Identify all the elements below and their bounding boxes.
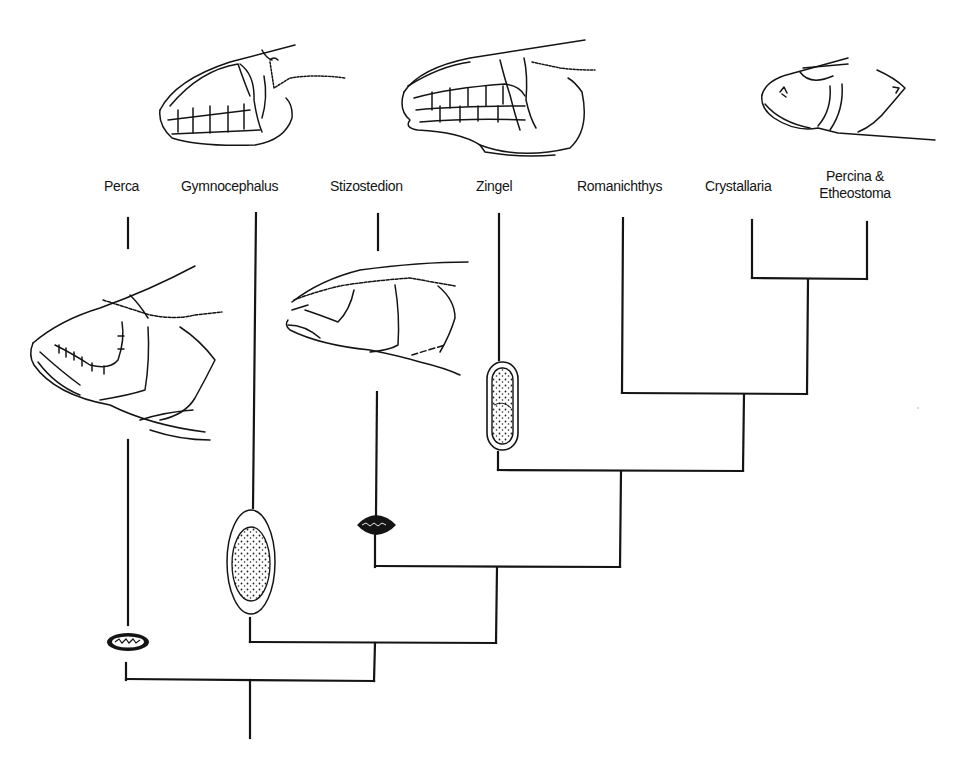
eggs <box>107 362 518 651</box>
label-zingel: Zingel <box>476 178 512 195</box>
speck <box>917 407 918 408</box>
branch-romanichthys <box>622 218 623 393</box>
head-perca-drawing <box>31 266 222 440</box>
stem-node-1 <box>807 279 808 394</box>
head-stizostedion-drawing <box>286 262 468 375</box>
head-gymnocephalus-drawing <box>160 45 345 145</box>
node-romanichthys <box>622 393 807 394</box>
egg-perca <box>107 633 149 651</box>
egg-gymnocephalus <box>227 510 275 614</box>
head-zingel-drawing <box>402 40 595 156</box>
node-gymnocephalus <box>250 642 496 643</box>
stem-node-4 <box>496 567 497 643</box>
label-romanichthys: Romanichthys <box>577 178 662 195</box>
egg-zingel <box>487 362 518 450</box>
label-percina-etheostoma: Percina & Etheostoma <box>800 168 910 202</box>
node-crystallaria-percina <box>752 278 867 279</box>
branch-gymnocephalus <box>253 213 256 508</box>
egg-stizostedion <box>357 515 396 535</box>
cladogram-canvas <box>0 0 955 766</box>
branch-stizostedion-mid <box>376 392 377 515</box>
label-gymnocephalus: Gymnocephalus <box>181 178 278 195</box>
stem-node-5 <box>374 643 375 681</box>
label-perca: Perca <box>104 178 139 195</box>
stem-node-3 <box>620 471 621 567</box>
head-percina-drawing <box>762 58 935 140</box>
label-crystallaria: Crystallaria <box>705 178 771 195</box>
label-percina-line1: Percina & <box>800 168 910 185</box>
stem-node-2 <box>743 394 744 471</box>
label-percina-line2: Etheostoma <box>800 185 910 202</box>
tree-branches <box>126 213 867 738</box>
label-stizostedion: Stizostedion <box>330 178 403 195</box>
